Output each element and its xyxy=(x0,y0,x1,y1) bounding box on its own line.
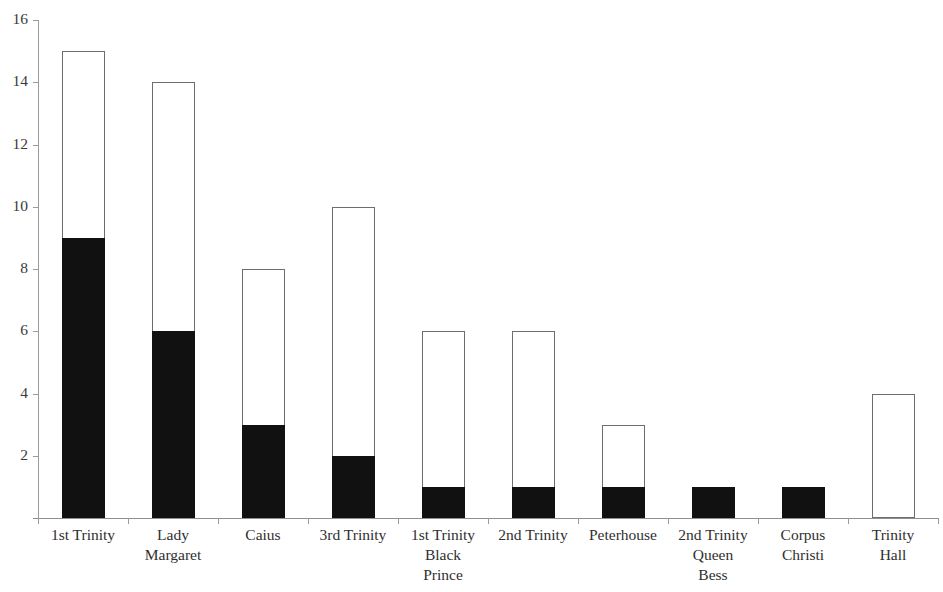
bar-segment-black xyxy=(62,238,105,518)
bar-segment-white xyxy=(332,207,375,457)
y-axis-tick-label: 8 xyxy=(2,260,28,276)
x-axis-tick-mark xyxy=(938,518,939,524)
y-axis-tick-mark xyxy=(33,82,39,83)
x-axis-tick-mark xyxy=(38,518,39,524)
bar-segment-white xyxy=(62,51,105,239)
y-axis-tick-mark xyxy=(33,394,39,395)
bar-segment-black xyxy=(242,425,285,518)
bar-segment-white xyxy=(422,331,465,488)
bar-segment-white xyxy=(602,425,645,488)
x-axis-tick-mark xyxy=(848,518,849,524)
x-axis-category-label-line: Queen xyxy=(668,545,758,565)
bar-segment-black xyxy=(512,487,555,518)
bar xyxy=(152,82,195,518)
x-axis-category-label: Caius xyxy=(218,525,308,545)
bar xyxy=(62,51,105,518)
bar-segment-black xyxy=(782,487,825,518)
x-axis-tick-mark xyxy=(578,518,579,524)
x-axis-tick-mark xyxy=(308,518,309,524)
x-axis-category-label-line: Corpus xyxy=(758,525,848,545)
x-axis-tick-mark xyxy=(758,518,759,524)
y-axis-tick-label: 16 xyxy=(2,11,28,27)
x-axis-category-label-line: Black xyxy=(398,545,488,565)
x-axis-category-label: 2nd TrinityQueenBess xyxy=(668,525,758,585)
bar xyxy=(602,425,645,518)
bar-segment-black xyxy=(152,331,195,518)
x-axis-category-label-line: Caius xyxy=(218,525,308,545)
y-axis-tick-label: 2 xyxy=(2,447,28,463)
x-axis-category-label-line: 3rd Trinity xyxy=(308,525,398,545)
x-axis-category-label: LadyMargaret xyxy=(128,525,218,565)
bar xyxy=(332,207,375,518)
x-axis-category-label-line: 2nd Trinity xyxy=(488,525,578,545)
x-axis-tick-mark xyxy=(398,518,399,524)
y-axis-tick-label: 10 xyxy=(2,198,28,214)
x-axis-category-label-line: Lady xyxy=(128,525,218,545)
y-axis-tick-label: 12 xyxy=(2,136,28,152)
x-axis-category-label: 1st TrinityBlackPrince xyxy=(398,525,488,585)
bar xyxy=(512,331,555,518)
bar-segment-white xyxy=(512,331,555,488)
y-axis-tick-mark xyxy=(33,456,39,457)
x-axis-category-label: 3rd Trinity xyxy=(308,525,398,545)
y-axis-tick-mark xyxy=(33,20,39,21)
x-axis-tick-mark xyxy=(488,518,489,524)
bar-segment-black xyxy=(692,487,735,518)
y-axis-tick-mark xyxy=(33,269,39,270)
y-axis-tick-label: 6 xyxy=(2,322,28,338)
bar xyxy=(422,331,465,518)
y-axis-tick-label: 14 xyxy=(2,73,28,89)
bar xyxy=(692,487,735,518)
x-axis-tick-mark xyxy=(218,518,219,524)
x-axis-tick-mark xyxy=(668,518,669,524)
bar-chart: 161412108642 1st TrinityLadyMargaretCaiu… xyxy=(0,0,943,592)
bar xyxy=(782,487,825,518)
bar-segment-black xyxy=(422,487,465,518)
bar-segment-black xyxy=(602,487,645,518)
bar-segment-black xyxy=(332,456,375,518)
x-axis-category-label-line: Christi xyxy=(758,545,848,565)
x-axis-category-label-line: 1st Trinity xyxy=(38,525,128,545)
bar xyxy=(242,269,285,518)
bar-segment-white xyxy=(152,82,195,332)
y-axis-tick-mark xyxy=(33,207,39,208)
y-axis-tick-mark xyxy=(33,145,39,146)
x-axis-category-label-line: Hall xyxy=(848,545,938,565)
x-axis-line xyxy=(33,518,938,519)
x-axis-category-label: CorpusChristi xyxy=(758,525,848,565)
x-axis-category-label-line: Margaret xyxy=(128,545,218,565)
x-axis-category-label: 2nd Trinity xyxy=(488,525,578,545)
x-axis-category-label-line: Peterhouse xyxy=(578,525,668,545)
x-axis-category-label-line: 2nd Trinity xyxy=(668,525,758,545)
bar-segment-white xyxy=(872,394,915,519)
y-axis-tick-mark xyxy=(33,331,39,332)
bar xyxy=(872,394,915,519)
x-axis-category-label-line: Prince xyxy=(398,565,488,585)
x-axis-tick-mark xyxy=(128,518,129,524)
x-axis-category-label-line: Trinity xyxy=(848,525,938,545)
x-axis-category-label: 1st Trinity xyxy=(38,525,128,545)
y-axis-tick-label: 4 xyxy=(2,385,28,401)
x-axis-category-label-line: Bess xyxy=(668,565,758,585)
x-axis-category-label: Peterhouse xyxy=(578,525,668,545)
x-axis-category-label-line: 1st Trinity xyxy=(398,525,488,545)
bar-segment-white xyxy=(242,269,285,426)
x-axis-category-label: TrinityHall xyxy=(848,525,938,565)
